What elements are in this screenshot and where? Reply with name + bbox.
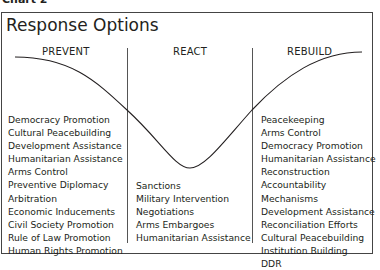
list-item: Democracy Promotion: [261, 139, 380, 152]
list-item: Accountability Mechanisms: [261, 178, 380, 204]
list-item: Peacekeeping: [261, 113, 380, 126]
list-item: DDR: [261, 257, 380, 270]
list-item: Cultural Peacebuilding: [8, 126, 123, 139]
list-item: Reconciliation Efforts: [261, 218, 380, 231]
list-item: Rule of Law Promotion: [8, 231, 123, 244]
list-item: Arms Embargoes: [136, 218, 251, 231]
list-item: Negotiations: [136, 205, 251, 218]
list-item: Preventive Diplomacy: [8, 178, 123, 191]
list-item: Human Rights Promotion: [8, 244, 123, 257]
list-item: Humanitarian Assistance: [8, 152, 123, 165]
list-item: Arms Control: [261, 126, 380, 139]
list-item: Humanitarian Assistance: [261, 152, 380, 165]
list-item: Economic Inducements: [8, 205, 123, 218]
list-item: Civil Society Promotion: [8, 218, 123, 231]
list-item: Military Intervention: [136, 192, 251, 205]
list-item: Institution Building: [261, 244, 380, 257]
list-item: Reconstruction: [261, 165, 380, 178]
list-item: Arms Control: [8, 165, 123, 178]
list-item: Cultural Peacebuilding: [261, 231, 380, 244]
rebuild-list: Peacekeeping Arms Control Democracy Prom…: [261, 113, 380, 270]
list-item: Democracy Promotion: [8, 113, 123, 126]
list-item: Development Assistance: [261, 205, 380, 218]
list-item: Humanitarian Assistance: [136, 231, 251, 244]
react-list: Sanctions Military Intervention Negotiat…: [136, 179, 251, 244]
list-item: Development Assistance: [8, 139, 123, 152]
prevent-list: Democracy Promotion Cultural Peacebuildi…: [8, 113, 123, 257]
list-item: Sanctions: [136, 179, 251, 192]
list-item: Arbitration: [8, 192, 123, 205]
